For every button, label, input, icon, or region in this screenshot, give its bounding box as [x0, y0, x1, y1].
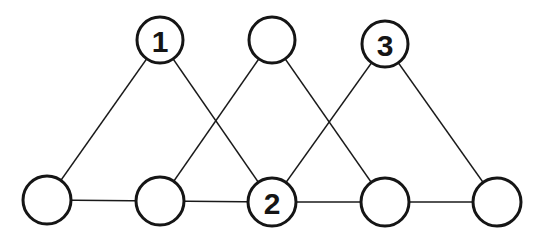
graph-diagram: 132	[0, 0, 550, 242]
node-circle	[23, 176, 71, 224]
node-label: 3	[377, 29, 394, 62]
edge-t1-b1	[47, 40, 160, 200]
node-t1: 1	[137, 17, 183, 63]
node-circle	[136, 177, 184, 225]
node-circle	[249, 17, 295, 63]
node-b4	[361, 178, 409, 226]
node-label: 2	[264, 187, 281, 220]
node-b5	[473, 178, 521, 226]
node-b3: 2	[248, 178, 296, 226]
node-b2	[136, 177, 184, 225]
node-circle	[473, 178, 521, 226]
node-circle	[361, 178, 409, 226]
node-t3: 3	[362, 21, 408, 67]
node-label: 1	[152, 25, 169, 58]
node-t2	[249, 17, 295, 63]
edge-t3-b5	[385, 44, 497, 202]
nodes-layer: 132	[23, 17, 521, 226]
node-b1	[23, 176, 71, 224]
